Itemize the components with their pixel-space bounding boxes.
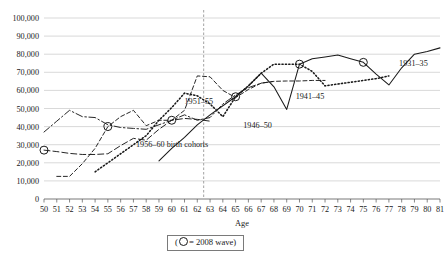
y-axis-tick-label: 0 xyxy=(35,195,39,204)
legend-suffix: ) xyxy=(233,237,236,247)
x-axis-tick-label: 64 xyxy=(219,205,227,214)
x-axis-tick-label: 55 xyxy=(104,205,112,214)
x-axis-tick-label: 62 xyxy=(193,205,201,214)
x-axis-tick-label: 77 xyxy=(385,205,393,214)
y-axis-tick-label: 60,000 xyxy=(16,86,39,95)
x-axis-tick-label: 79 xyxy=(410,205,418,214)
y-axis-tick-label: 50,000 xyxy=(16,105,39,114)
x-axis-tick-label: 54 xyxy=(91,205,99,214)
series-line-1946-50 xyxy=(57,76,325,176)
y-axis-tick-label: 80,000 xyxy=(16,50,39,59)
x-axis-tick-label: 68 xyxy=(270,205,278,214)
series-label-1941-45: 1941–45 xyxy=(296,92,325,101)
x-axis-tick-label: 63 xyxy=(206,205,214,214)
x-axis-tick-label: 67 xyxy=(257,205,265,214)
x-axis-tick-label: 72 xyxy=(321,205,329,214)
x-axis-tick-label: 59 xyxy=(155,205,163,214)
x-axis-tick-label: 60 xyxy=(168,205,176,214)
x-axis-tick-label: 66 xyxy=(244,205,252,214)
y-axis-tick-label: 90,000 xyxy=(16,32,39,41)
legend-text: 2008 wave xyxy=(196,237,233,247)
x-axis-tick-label: 61 xyxy=(180,205,188,214)
series-label-1946-50: 1946–50 xyxy=(243,121,272,130)
x-axis-tick-label: 51 xyxy=(53,205,61,214)
x-axis-tick-label: 75 xyxy=(359,205,367,214)
x-axis-tick-label: 58 xyxy=(142,205,150,214)
y-axis-tick-label: 30,000 xyxy=(16,141,39,150)
x-axis-tick-label: 65 xyxy=(232,205,240,214)
legend-2008-wave: (= 2008 wave) xyxy=(167,235,244,251)
x-axis-tick-label: 56 xyxy=(117,205,125,214)
x-axis-tick-label: 78 xyxy=(398,205,406,214)
y-axis-tick-label: 40,000 xyxy=(16,123,39,132)
cohort-earnings-line-chart: 010,00020,00030,00040,00050,00060,00070,… xyxy=(0,0,447,261)
x-axis-tick-label: 76 xyxy=(372,205,380,214)
x-axis-tick-label: 71 xyxy=(308,205,316,214)
series-line-1951-55 xyxy=(44,81,274,132)
x-axis-tick-label: 80 xyxy=(423,205,431,214)
circle-marker-icon xyxy=(179,237,188,246)
series-line-1941-45 xyxy=(95,64,389,172)
legend-prefix: ( xyxy=(175,237,178,247)
y-axis-tick-label: 20,000 xyxy=(16,159,39,168)
x-axis-tick-label: 53 xyxy=(78,205,86,214)
x-axis-tick-label: 57 xyxy=(129,205,137,214)
y-axis-tick-label: 100,000 xyxy=(12,14,39,23)
x-axis-tick-label: 74 xyxy=(346,205,354,214)
legend-equals: = xyxy=(189,237,196,247)
x-axis-title: Age xyxy=(235,219,249,228)
x-axis-tick-label: 81 xyxy=(436,205,444,214)
chart-container: 010,00020,00030,00040,00050,00060,00070,… xyxy=(0,0,447,261)
x-axis-tick-label: 50 xyxy=(40,205,48,214)
x-axis-tick-label: 73 xyxy=(334,205,342,214)
y-axis-tick-label: 10,000 xyxy=(16,177,39,186)
x-axis-tick-label: 69 xyxy=(283,205,291,214)
x-axis-tick-label: 52 xyxy=(65,205,73,214)
y-axis-tick-label: 70,000 xyxy=(16,68,39,77)
x-axis-tick-label: 70 xyxy=(295,205,303,214)
series-label-1931-35: 1931–35 xyxy=(399,59,428,68)
